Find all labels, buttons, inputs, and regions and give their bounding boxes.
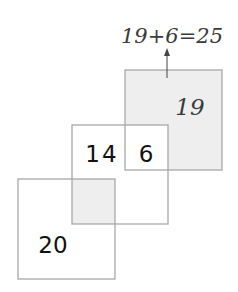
- equation-text: 19+6=25: [121, 24, 223, 48]
- bottom-left-label: 20: [38, 232, 67, 258]
- overlap-label: 6: [139, 141, 154, 167]
- middle-label: 14: [85, 141, 118, 167]
- overlapping-squares-diagram: 19+6=25 19 14 6 20: [0, 0, 238, 292]
- arrow-up-icon: [164, 48, 170, 56]
- top-right-label: 19: [175, 94, 204, 120]
- middle-bottom-overlap: [72, 179, 115, 224]
